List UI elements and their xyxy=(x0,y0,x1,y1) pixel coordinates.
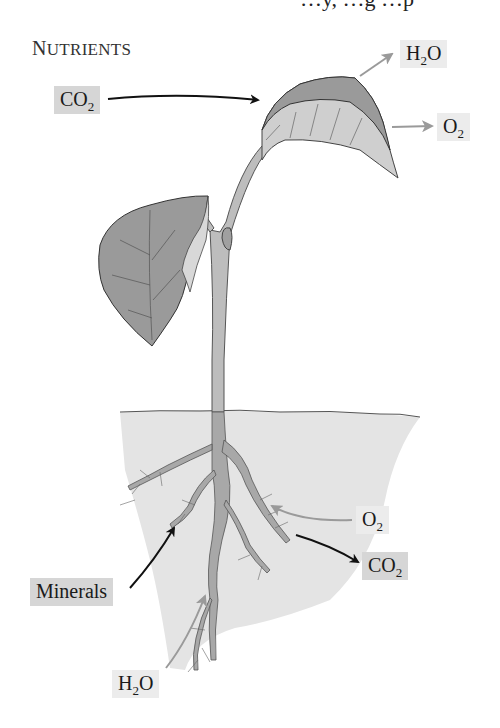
label-main: H xyxy=(406,42,420,64)
co2-leaf-input-label: CO2 xyxy=(54,86,100,114)
o2-root-input-label: O2 xyxy=(356,506,389,534)
upper-leaf xyxy=(262,77,398,178)
label-sub: 2 xyxy=(396,565,403,580)
plant-nutrient-diagram: …y, …g …p NUTRIENTS xyxy=(0,0,500,728)
soil-region xyxy=(120,410,420,670)
label-sub: 2 xyxy=(457,126,464,141)
label-main: CO xyxy=(368,554,396,576)
label-main: O xyxy=(362,508,376,530)
h2o-root-input-label: H2O xyxy=(112,670,159,698)
label-main: CO xyxy=(60,88,88,110)
co2-root-output-label: CO2 xyxy=(362,552,408,580)
label-sub: 2 xyxy=(88,99,95,114)
minerals-root-input-label: Minerals xyxy=(30,578,113,606)
label-main: O xyxy=(443,115,457,137)
co2-to-leaf-arrow xyxy=(108,96,258,100)
o2-from-leaf-arrow xyxy=(392,126,432,127)
label-tail: O xyxy=(139,672,153,694)
label-main: H xyxy=(118,672,132,694)
o2-leaf-output-label: O2 xyxy=(437,113,470,141)
h2o-from-leaf-arrow xyxy=(360,54,392,76)
stem xyxy=(210,146,268,412)
h2o-leaf-output-label: H2O xyxy=(400,40,447,68)
label-sub: 2 xyxy=(376,519,383,534)
lower-left-leaf xyxy=(99,196,209,346)
label-main: Minerals xyxy=(36,580,107,602)
label-tail: O xyxy=(427,42,441,64)
